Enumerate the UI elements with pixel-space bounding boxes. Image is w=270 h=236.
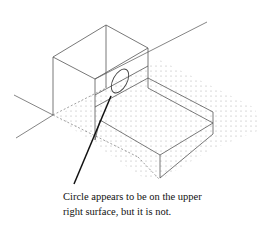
dotted-shadow-region [56,60,260,180]
caption: Circle appears to be on the upper right … [63,189,263,219]
axis-left-lower [16,115,53,138]
axis-left-upper [14,95,53,115]
caption-line-1: Circle appears to be on the upper [63,189,263,204]
caption-line-2: right surface, but it is not. [63,204,263,219]
